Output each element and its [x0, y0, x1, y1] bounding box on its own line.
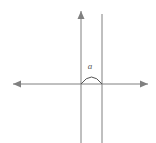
figure-canvas	[0, 0, 156, 143]
vertical-axis	[78, 11, 85, 143]
vertical-axis-top-arrowhead	[78, 11, 85, 19]
angle-arc	[81, 77, 102, 84]
horizontal-axis-left-arrowhead	[13, 81, 21, 88]
angle-label: a	[88, 62, 93, 71]
geometry-figure: a	[0, 0, 156, 143]
horizontal-axis-right-arrowhead	[140, 81, 148, 88]
angle-arc-path	[81, 77, 102, 84]
